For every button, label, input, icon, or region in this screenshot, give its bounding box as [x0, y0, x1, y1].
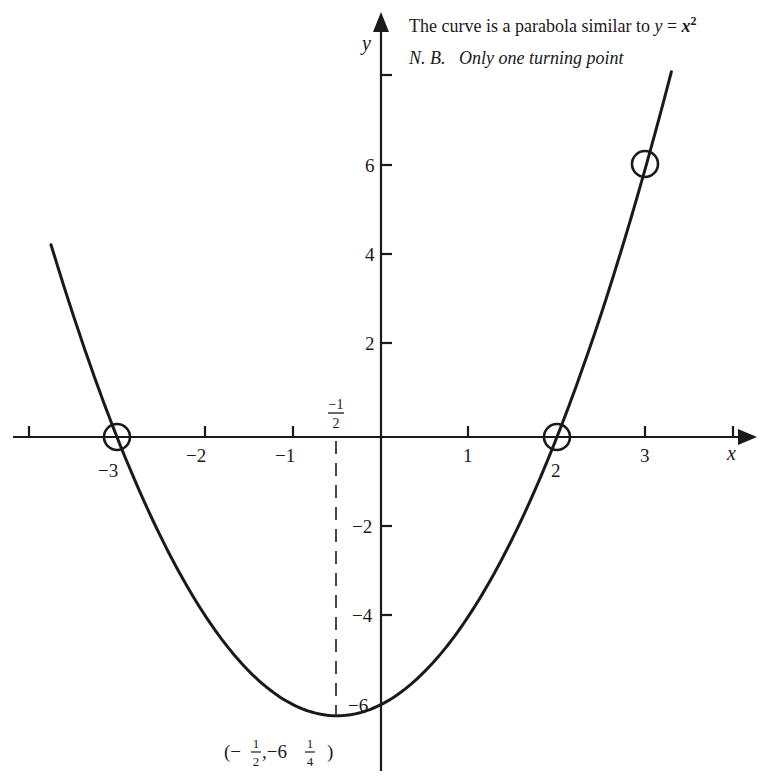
svg-text:,−6: ,−6: [262, 741, 287, 762]
x-tick-label: −2: [186, 445, 206, 466]
turning-point-note: N. B. Only one turning point: [408, 48, 624, 68]
svg-text:1: 1: [253, 736, 260, 751]
x-axis-arrow-icon: [738, 429, 757, 445]
x-axis-label: x: [726, 442, 736, 464]
svg-text:2: 2: [333, 416, 340, 431]
y-tick-label: −4: [352, 605, 373, 626]
y-axis: [381, 28, 392, 771]
svg-text:): ): [327, 741, 333, 763]
half-fraction-label: −1 2: [328, 397, 344, 431]
x-tick-label: −1: [275, 445, 295, 466]
y-tick-label: −2: [352, 516, 372, 537]
x-axis: [13, 426, 742, 437]
svg-text:4: 4: [307, 754, 314, 769]
x-tick-label: −3: [98, 460, 118, 481]
svg-text:(−: (−: [224, 741, 241, 763]
parabola-chart: −3 −2 −1 1 2 3 6 4 2 −2 −4 −6 x y −1 2 (…: [0, 0, 763, 781]
y-axis-label: y: [360, 32, 371, 55]
vertex-label: (− 1 2 ,−6 1 4 ): [224, 736, 333, 769]
x-tick-label: 1: [463, 445, 473, 466]
svg-text:1: 1: [307, 736, 314, 751]
y-tick-label: 2: [365, 333, 375, 354]
x-tick-label: 2: [551, 460, 561, 481]
y-tick-label: −6: [348, 695, 368, 716]
y-tick-label: 6: [365, 155, 375, 176]
chart-title: The curve is a parabola similar to y = x…: [409, 14, 697, 36]
y-tick-label: 4: [365, 244, 375, 265]
svg-text:2: 2: [253, 754, 260, 769]
y-axis-arrow-icon: [373, 12, 389, 32]
x-tick-label: 3: [640, 445, 650, 466]
svg-text:−1: −1: [329, 397, 344, 412]
